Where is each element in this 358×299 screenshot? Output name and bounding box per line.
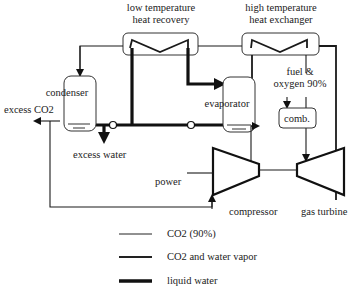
high-temp-heat-exchanger [242, 33, 319, 55]
gas-turbine-label: gas turbine [301, 206, 348, 217]
compressor-label: compressor [229, 206, 278, 217]
power-label: power [155, 176, 182, 187]
line-co2-recycle [50, 121, 212, 207]
process-flow-diagram: low temperature heat recovery high tempe… [0, 0, 358, 299]
high-temp-hx-label-2: heat exchanger [249, 14, 313, 25]
legend-label-co2: CO2 (90%) [167, 228, 216, 240]
low-temp-hx-label-1: low temperature [127, 2, 196, 13]
gas-turbine [297, 148, 344, 195]
fuel-label-2: oxygen 90% [274, 78, 327, 89]
line-compressor-to-evaporator [251, 126, 258, 164]
excess-water-label: excess water [73, 149, 127, 160]
legend-label-co2-water-vapor: CO2 and water vapor [167, 251, 258, 262]
pump-1-icon [110, 122, 117, 129]
line-lthx-to-condenser [80, 46, 123, 78]
condenser [64, 76, 96, 131]
pump-2-icon [188, 122, 195, 129]
evaporator-label: evaporator [205, 98, 250, 109]
compressor [213, 148, 259, 195]
fuel-label-1: fuel & [286, 66, 313, 77]
high-temp-hx-label-1: high temperature [245, 2, 317, 13]
legend: CO2 (90%) CO2 and water vapor liquid wat… [119, 228, 258, 286]
combustor-label: comb. [284, 113, 310, 124]
legend-label-liquid-water: liquid water [167, 275, 218, 286]
low-temp-hx-label-2: heat recovery [133, 14, 191, 25]
excess-co2-label: excess CO2 [4, 104, 54, 115]
condenser-label: condenser [46, 87, 89, 98]
